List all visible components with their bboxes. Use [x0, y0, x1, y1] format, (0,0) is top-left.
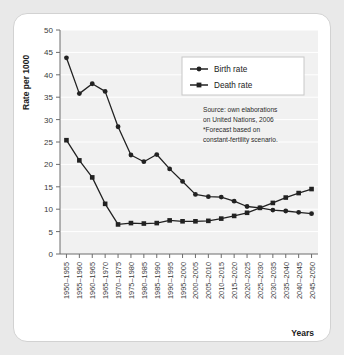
x-axis-ticks: 1950–19551955–19601960–19651965–19701970…: [62, 254, 316, 299]
datapoint-death-rate-13: [232, 214, 237, 219]
y-axis-ticks: 05101520253035404550: [44, 26, 60, 259]
x-tick-label: 1985–1990: [153, 262, 162, 299]
datapoint-death-rate-11: [206, 219, 211, 224]
x-tick-label: 1990–1995: [166, 262, 175, 299]
x-axis-title: Years: [291, 328, 314, 338]
y-tick-label: 50: [44, 26, 53, 35]
legend-label-death-rate: Death rate: [214, 81, 253, 90]
source-line-2: on United Nations, 2006: [203, 116, 274, 123]
datapoint-birth-rate-6: [141, 159, 146, 164]
x-tick-label: 2015–2020: [230, 262, 239, 299]
datapoint-birth-rate-12: [219, 195, 224, 200]
datapoint-death-rate-0: [64, 138, 69, 143]
y-tick-label: 15: [44, 183, 53, 192]
datapoint-death-rate-6: [142, 221, 147, 226]
x-tick-label: 1955–1960: [75, 262, 84, 299]
datapoint-death-rate-14: [245, 210, 250, 215]
legend-marker-birth-rate: [197, 67, 202, 72]
y-axis-title: Rate per 1000: [21, 54, 31, 110]
datapoint-death-rate-5: [129, 221, 134, 226]
datapoint-birth-rate-4: [116, 124, 121, 129]
datapoint-death-rate-3: [103, 202, 108, 207]
y-tick-label: 40: [44, 71, 53, 80]
x-tick-label: 1950–1955: [62, 262, 71, 299]
datapoint-death-rate-10: [193, 219, 198, 224]
datapoint-death-rate-12: [219, 216, 224, 221]
y-tick-label: 20: [44, 160, 53, 169]
datapoint-death-rate-9: [180, 219, 185, 224]
x-tick-label: 2025–2030: [256, 262, 265, 299]
datapoint-birth-rate-5: [129, 153, 134, 158]
datapoint-birth-rate-7: [154, 152, 159, 157]
datapoint-birth-rate-13: [232, 199, 237, 204]
datapoint-birth-rate-8: [167, 166, 172, 171]
x-tick-label: 2045–2050: [308, 262, 317, 299]
legend-marker-death-rate: [197, 83, 202, 88]
x-tick-label: 1965–1970: [101, 262, 110, 299]
x-tick-label: 2035–2040: [282, 262, 291, 299]
y-tick-label: 5: [49, 228, 54, 237]
datapoint-birth-rate-18: [296, 210, 301, 215]
x-tick-label: 2020–2025: [243, 262, 252, 299]
datapoint-birth-rate-16: [270, 208, 275, 213]
datapoint-birth-rate-10: [193, 192, 198, 197]
datapoint-birth-rate-19: [309, 211, 314, 216]
datapoint-birth-rate-3: [103, 89, 108, 94]
source-line-4: constant-fertility scenario.: [203, 136, 278, 144]
source-line-1: Source: own elaborations: [203, 106, 278, 113]
datapoint-death-rate-2: [90, 175, 95, 180]
x-tick-label: 2005–2010: [204, 262, 213, 299]
datapoint-death-rate-8: [167, 218, 172, 223]
datapoint-birth-rate-11: [206, 194, 211, 199]
datapoint-death-rate-7: [154, 221, 159, 226]
datapoint-death-rate-1: [77, 158, 82, 163]
x-tick-label: 2030–2035: [269, 262, 278, 299]
x-tick-label: 1975–1980: [127, 262, 136, 299]
datapoint-death-rate-19: [309, 187, 314, 192]
datapoint-birth-rate-17: [283, 209, 288, 214]
y-tick-label: 10: [44, 205, 53, 214]
x-tick-label: 2040–2045: [295, 262, 304, 299]
y-tick-label: 35: [44, 93, 53, 102]
x-tick-label: 1970–1975: [114, 262, 123, 299]
datapoint-birth-rate-14: [245, 204, 250, 209]
datapoint-death-rate-18: [296, 191, 301, 196]
datapoint-birth-rate-0: [64, 55, 69, 60]
datapoint-death-rate-4: [116, 222, 121, 227]
y-tick-label: 25: [44, 138, 53, 147]
datapoint-death-rate-16: [271, 201, 276, 206]
legend-label-birth-rate: Birth rate: [214, 65, 248, 74]
legend: Birth rate Death rate: [182, 57, 304, 95]
population-rates-line-chart: 05101520253035404550 1950–19551955–19601…: [14, 14, 331, 342]
y-tick-label: 0: [49, 250, 54, 259]
y-tick-label: 30: [44, 116, 53, 125]
source-line-3: *Forecast based on: [203, 126, 261, 133]
datapoint-birth-rate-9: [180, 179, 185, 184]
chart-card: 05101520253035404550 1950–19551955–19601…: [13, 13, 331, 342]
x-tick-label: 1980–1985: [140, 262, 149, 299]
datapoint-birth-rate-1: [77, 91, 82, 96]
x-tick-label: 1995–2000: [179, 262, 188, 299]
x-tick-label: 1960–1965: [88, 262, 97, 299]
x-tick-label: 2010–2015: [217, 262, 226, 299]
x-tick-label: 2000–2005: [191, 262, 200, 299]
datapoint-death-rate-15: [258, 206, 263, 211]
datapoint-death-rate-17: [283, 195, 288, 200]
datapoint-birth-rate-2: [90, 81, 95, 86]
y-tick-label: 45: [44, 48, 53, 57]
